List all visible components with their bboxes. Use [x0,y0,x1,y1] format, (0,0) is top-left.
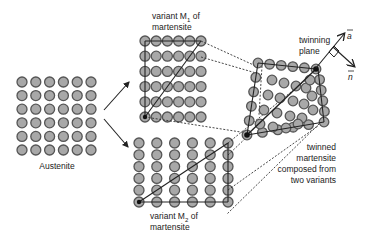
twin-atom [259,105,269,115]
austenite-lattice [17,77,96,155]
variant-m1-label-line2: martensite [152,22,192,32]
austenite-atom [72,131,82,141]
m1-atom [151,112,161,122]
austenite-atom [45,131,55,141]
austenite-atom [86,118,96,128]
m1-corner-dot [143,115,147,119]
m2-atom [187,185,197,195]
austenite-atom [31,118,41,128]
m1-atom [174,82,184,92]
arrow-to-m1 [104,82,129,110]
m2-atom [134,150,144,160]
correspondence-dashed-line [201,41,258,67]
austenite-atom [86,131,96,141]
austenite-atom [58,131,68,141]
twin-atom [307,91,317,101]
austenite-atom [72,118,82,128]
austenite-atom [31,104,41,114]
m1-atom [151,82,161,92]
m2-atom [187,173,197,183]
twin-atom [285,111,295,121]
austenite-atom [58,145,68,155]
m2-atom [152,162,162,172]
m1-atom [185,66,195,76]
m2-atom [187,150,197,160]
m1-atom [185,112,195,122]
m2-atom [152,173,162,183]
m1-atom [162,97,172,107]
m2-atom [134,138,144,148]
austenite-atom [58,104,68,114]
twin-atom [305,75,315,85]
austenite-atom [45,104,55,114]
austenite-atom [31,91,41,101]
twinned-label-line3: composed from [277,164,336,174]
austenite-label: Austenite [39,161,75,171]
m2-atom [170,162,180,172]
twin-atom [288,96,298,106]
m1-atom [185,97,195,107]
twin-corner-dot [313,66,319,72]
m2-atom [134,185,144,195]
twin-atom [320,107,330,117]
variant-m2-label-line2: martensite [150,222,190,231]
austenite-atom [45,145,55,155]
austenite-atom [31,77,41,87]
austenite-atom [17,118,27,128]
m1-atom [151,51,161,61]
m1-atom [185,82,195,92]
vector-n-arrow [333,47,354,66]
arrow-to-m2 [104,119,128,147]
twinned-label-line2: martensite [296,153,336,163]
austenite-atom [45,77,55,87]
austenite-atom [31,131,41,141]
austenite-atom [17,145,27,155]
twin-atom [299,99,309,109]
m2-atom [152,150,162,160]
twinning-plane-label-line2: plane [299,46,320,56]
austenite-atom [72,91,82,101]
m2-atom [134,173,144,183]
austenite-atom [72,77,82,87]
austenite-atom [17,104,27,114]
austenite-atom [58,118,68,128]
m2-atom [152,138,162,148]
austenite-atom [45,118,55,128]
m1-atom [174,51,184,61]
m1-atom [162,66,172,76]
twin-atom [275,93,285,103]
m2-atom [205,173,215,183]
m1-atom [174,112,184,122]
twin-atom [255,119,265,129]
twin-atom [263,90,273,100]
austenite-atom [17,91,27,101]
m2-atom [205,185,215,195]
m1-atom [196,82,206,92]
vector-n-label: n [348,72,353,82]
austenite-atom [72,145,82,155]
austenite-atom [45,91,55,101]
m1-atom [151,66,161,76]
vector-a-label: a [347,31,352,41]
twin-atom [267,75,277,85]
m2-atom [205,138,215,148]
m2-atom [170,138,180,148]
correspondence-dashed-line [201,57,256,73]
m2-corner-dot [137,200,141,204]
twin-corner-dot [244,132,250,138]
m1-atom [196,112,206,122]
austenite-atom [17,131,27,141]
austenite-atom [58,91,68,101]
m2-atom [170,150,180,160]
twin-atom [308,105,318,115]
martensite-twinning-diagram: Austenite variant M1 of martensite varia… [0,0,372,231]
austenite-atom [86,77,96,87]
m2-atom [205,162,215,172]
m2-atom [187,138,197,148]
m1-atom [162,51,172,61]
austenite-atom [31,145,41,155]
twin-atom [318,96,328,106]
m1-atom [196,66,206,76]
austenite-atom [58,77,68,87]
twinning-plane-label: twinning [299,35,330,45]
